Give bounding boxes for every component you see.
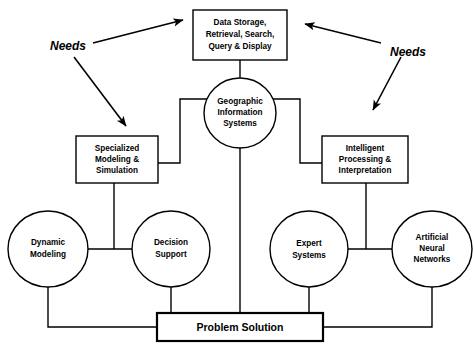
needs-right-arrow-to-data-storage (305, 24, 381, 43)
needs-left-arrow-to-specialized-modeling (74, 57, 126, 126)
node-problem-solution[interactable]: Problem Solution (157, 313, 323, 341)
decision-support-circle[interactable] (132, 211, 210, 287)
connector-dynamic-modeling-to-problem-solution (48, 287, 157, 327)
expert-systems-label-line-2: Systems (292, 251, 326, 260)
artificial-neural-networks-label-line-3: Networks (414, 255, 451, 264)
decision-support-label-line-2: Support (155, 250, 187, 259)
node-gis[interactable]: Geographic Information Systems (204, 78, 276, 148)
problem-solution-label: Problem Solution (197, 321, 284, 333)
expert-systems-circle[interactable] (270, 211, 348, 287)
specialized-modeling-label-line-2: Modeling & (95, 155, 139, 164)
node-specialized-modeling[interactable]: Specialized Modeling & Simulation (76, 136, 158, 183)
connector-gis-to-intelligent-processing (271, 99, 322, 163)
data-storage-label-line-3: Query & Display (208, 42, 272, 51)
needs-right-text: Needs (390, 45, 426, 59)
artificial-neural-networks-label-line-2: Neural (419, 244, 444, 253)
artificial-neural-networks-label-line-1: Artificial (416, 233, 449, 242)
intelligent-processing-label-line-1: Intelligent (346, 144, 385, 153)
gis-label-line-3: Systems (223, 119, 257, 128)
decision-support-label-line-1: Decision (154, 238, 188, 247)
dynamic-modeling-label-line-1: Dynamic (31, 238, 66, 247)
node-intelligent-processing[interactable]: Intelligent Processing & Interpretation (322, 136, 408, 183)
node-decision-support[interactable]: Decision Support (132, 211, 210, 287)
dynamic-modeling-circle[interactable] (8, 211, 88, 287)
gis-label-line-2: Information (217, 108, 262, 117)
node-dynamic-modeling[interactable]: Dynamic Modeling (8, 211, 88, 287)
gis-label-line-1: Geographic (217, 97, 263, 106)
node-data-storage[interactable]: Data Storage, Retrieval, Search, Query &… (193, 10, 287, 60)
needs-right-label: Needs (390, 45, 426, 59)
dynamic-modeling-label-line-2: Modeling (30, 250, 66, 259)
needs-left-arrow-to-data-storage (93, 20, 183, 43)
data-storage-label-line-2: Retrieval, Search, (206, 30, 275, 39)
needs-right-arrow-to-intelligent-processing (373, 57, 401, 110)
node-expert-systems[interactable]: Expert Systems (270, 211, 348, 287)
data-storage-label-line-1: Data Storage, (214, 18, 267, 27)
intelligent-processing-label-line-3: Interpretation (339, 166, 392, 175)
specialized-modeling-label-line-3: Simulation (96, 166, 138, 175)
diagram-canvas: Needs Needs Data Storage, Retrieval, Sea… (0, 0, 474, 353)
specialized-modeling-label-line-1: Specialized (95, 144, 140, 153)
node-artificial-neural-networks[interactable]: Artificial Neural Networks (392, 211, 472, 287)
connector-neural-networks-to-problem-solution (323, 287, 432, 327)
diagram-container: Needs Needs Data Storage, Retrieval, Sea… (0, 0, 474, 353)
intelligent-processing-label-line-2: Processing & (339, 155, 391, 164)
connector-gis-to-specialized-modeling (158, 99, 209, 163)
expert-systems-label-line-1: Expert (296, 239, 322, 248)
needs-left-label: Needs (50, 39, 86, 53)
needs-left-text: Needs (50, 39, 86, 53)
